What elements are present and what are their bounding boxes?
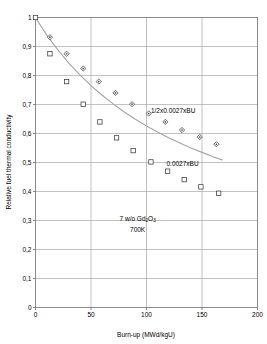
- composition-sub-2: 3: [153, 218, 156, 223]
- data-point-square-10: [199, 185, 203, 189]
- y-tick-label-7: 0,7: [22, 101, 31, 108]
- y-tick-label-8: 0,8: [22, 72, 31, 79]
- chart-background: [0, 0, 267, 344]
- diamond-core: [115, 92, 117, 94]
- x-tick-label-1: 50: [87, 311, 95, 318]
- data-point-square-1: [48, 52, 52, 56]
- y-tick-label-2: 0,2: [22, 246, 31, 253]
- y-tick-label-0: 0: [28, 304, 32, 311]
- data-point-square-0: [33, 15, 37, 19]
- data-point-square-6: [131, 148, 135, 152]
- y-tick-label-4: 0,4: [22, 188, 31, 195]
- diamond-core: [98, 81, 100, 83]
- composition-main-1: 7 w/o Gd: [120, 215, 146, 222]
- diamond-core: [148, 113, 150, 115]
- thermal-conductivity-scatter-chart: 00,10,20,30,40,50,60,70,80,91 0501001502…: [0, 0, 267, 344]
- y-tick-label-3: 0,3: [22, 217, 31, 224]
- diamond-core: [66, 53, 68, 55]
- data-point-square-7: [149, 160, 153, 164]
- diamond-core: [49, 36, 51, 38]
- y-tick-label-5: 0,5: [22, 159, 31, 166]
- data-point-square-8: [165, 169, 169, 173]
- data-point-square-9: [182, 177, 186, 181]
- diamond-core: [216, 143, 218, 145]
- y-tick-label-10: 1: [28, 14, 32, 21]
- y-tick-label-9: 0,9: [22, 43, 31, 50]
- y-axis-title: Relative fuel thermal conductivity: [5, 114, 13, 210]
- y-tick-label-6: 0,6: [22, 130, 31, 137]
- annotation-temperature-label: 700K: [130, 226, 146, 233]
- x-tick-label-4: 200: [252, 311, 263, 318]
- x-axis-title: Burn-up (MWd/kgU): [117, 331, 175, 339]
- diamond-core: [82, 68, 84, 70]
- data-point-square-2: [64, 79, 68, 83]
- x-tick-label-2: 100: [141, 311, 152, 318]
- diamond-core: [181, 129, 183, 131]
- data-point-square-3: [81, 102, 85, 106]
- diamond-core: [131, 103, 133, 105]
- x-tick-label-0: 0: [34, 311, 38, 318]
- data-point-square-4: [98, 120, 102, 124]
- data-point-square-11: [216, 191, 220, 195]
- diamond-core: [165, 121, 167, 123]
- data-point-square-5: [114, 136, 118, 140]
- annotation-lower-series-label: 0.0027xBU: [166, 160, 198, 167]
- y-tick-label-1: 0,1: [22, 275, 31, 282]
- chart-container: 00,10,20,30,40,50,60,70,80,91 0501001502…: [0, 0, 267, 344]
- annotation-upper-series-label: 1/2x0.0027xBU: [151, 107, 196, 114]
- x-tick-label-3: 150: [197, 311, 208, 318]
- diamond-core: [199, 136, 201, 138]
